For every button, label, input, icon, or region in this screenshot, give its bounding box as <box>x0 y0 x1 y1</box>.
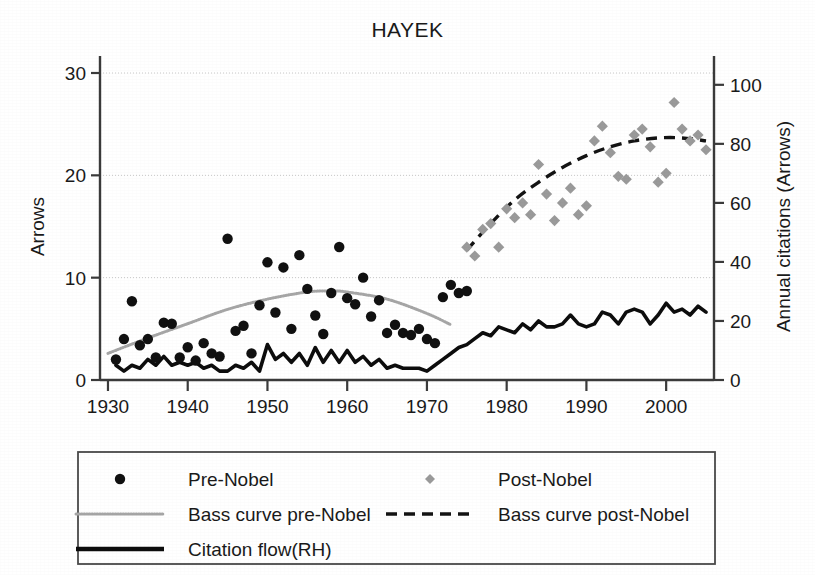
data-point-post-nobel <box>661 168 672 179</box>
data-point-post-nobel <box>637 123 648 134</box>
data-point-pre-nobel <box>294 250 304 260</box>
legend-marker-pre-nobel <box>115 474 125 484</box>
data-point-pre-nobel <box>127 296 137 306</box>
data-point-pre-nobel <box>462 286 472 296</box>
data-point-pre-nobel <box>262 257 272 267</box>
data-point-pre-nobel <box>446 280 456 290</box>
data-point-post-nobel <box>477 224 488 235</box>
y-axis-tick-label: 0 <box>75 370 86 391</box>
data-point-pre-nobel <box>238 321 248 331</box>
data-point-pre-nobel <box>310 310 320 320</box>
y2-axis-tick-label: 80 <box>730 134 751 155</box>
data-point-pre-nobel <box>167 319 177 329</box>
data-point-post-nobel <box>597 121 608 132</box>
y-axis-tick-label: 30 <box>65 63 86 84</box>
data-point-pre-nobel <box>350 299 360 309</box>
data-point-post-nobel <box>493 242 504 253</box>
y2-axis-title: Annual citations (Arrows) <box>773 121 794 332</box>
chart-figure: HAYEK 0102030020406080100193019401950196… <box>0 0 815 575</box>
x-axis-tick-label: 1990 <box>565 396 607 417</box>
data-point-pre-nobel <box>198 338 208 348</box>
data-point-pre-nobel <box>286 324 296 334</box>
legend-label-post-nobel: Post-Nobel <box>498 469 592 490</box>
y2-axis-tick-label: 0 <box>730 370 741 391</box>
data-point-post-nobel <box>557 197 568 208</box>
data-point-post-nobel <box>677 123 688 134</box>
y2-axis-tick-label: 100 <box>730 75 762 96</box>
x-axis-tick-label: 1930 <box>87 396 129 417</box>
data-point-pre-nobel <box>390 320 400 330</box>
data-point-post-nobel <box>549 215 560 226</box>
data-point-post-nobel <box>565 183 576 194</box>
data-point-pre-nobel <box>334 242 344 252</box>
y-axis-tick-label: 20 <box>65 165 86 186</box>
data-point-pre-nobel <box>438 292 448 302</box>
x-axis-tick-label: 1980 <box>486 396 528 417</box>
data-point-post-nobel <box>517 197 528 208</box>
data-point-pre-nobel <box>246 348 256 358</box>
data-point-post-nobel <box>645 141 656 152</box>
data-point-pre-nobel <box>278 262 288 272</box>
data-point-post-nobel <box>700 144 711 155</box>
data-point-post-nobel <box>541 188 552 199</box>
data-point-pre-nobel <box>254 300 264 310</box>
plot-area: 0102030020406080100193019401950196019701… <box>0 0 815 575</box>
x-axis-tick-label: 1960 <box>326 396 368 417</box>
data-point-pre-nobel <box>414 324 424 334</box>
series-line-bass-post-nobel <box>467 138 706 251</box>
data-point-post-nobel <box>605 147 616 158</box>
legend-label-citation-flow: Citation flow(RH) <box>188 539 332 560</box>
x-axis-tick-label: 1940 <box>167 396 209 417</box>
data-point-pre-nobel <box>318 329 328 339</box>
data-point-pre-nobel <box>111 354 121 364</box>
data-point-pre-nobel <box>302 284 312 294</box>
data-point-pre-nobel <box>119 334 129 344</box>
data-point-post-nobel <box>525 209 536 220</box>
legend-label-bass-pre-nobel: Bass curve pre-Nobel <box>188 504 371 525</box>
data-point-post-nobel <box>653 177 664 188</box>
data-point-post-nobel <box>533 159 544 170</box>
y-axis-title: Arrows <box>27 197 48 256</box>
data-point-pre-nobel <box>190 355 200 365</box>
data-point-post-nobel <box>573 209 584 220</box>
y2-axis-tick-label: 60 <box>730 193 751 214</box>
legend-label-pre-nobel: Pre-Nobel <box>188 469 274 490</box>
data-point-pre-nobel <box>430 338 440 348</box>
data-point-pre-nobel <box>270 307 280 317</box>
data-point-pre-nobel <box>382 328 392 338</box>
data-point-pre-nobel <box>366 311 376 321</box>
data-point-pre-nobel <box>222 234 232 244</box>
data-point-pre-nobel <box>374 295 384 305</box>
legend-label-bass-post-nobel: Bass curve post-Nobel <box>498 504 689 525</box>
x-axis-tick-label: 1950 <box>246 396 288 417</box>
y2-axis-tick-label: 40 <box>730 252 751 273</box>
data-point-pre-nobel <box>143 334 153 344</box>
data-point-pre-nobel <box>326 288 336 298</box>
y-axis-tick-label: 10 <box>65 268 86 289</box>
y2-axis-tick-label: 20 <box>730 311 751 332</box>
data-point-post-nobel <box>581 200 592 211</box>
data-point-pre-nobel <box>183 342 193 352</box>
x-axis-tick-label: 2000 <box>645 396 687 417</box>
data-point-post-nobel <box>669 97 680 108</box>
data-point-pre-nobel <box>214 351 224 361</box>
data-point-post-nobel <box>469 250 480 261</box>
x-axis-tick-label: 1970 <box>406 396 448 417</box>
data-point-pre-nobel <box>151 352 161 362</box>
data-point-post-nobel <box>509 212 520 223</box>
data-point-pre-nobel <box>358 272 368 282</box>
data-point-pre-nobel <box>175 352 185 362</box>
data-point-post-nobel <box>589 135 600 146</box>
